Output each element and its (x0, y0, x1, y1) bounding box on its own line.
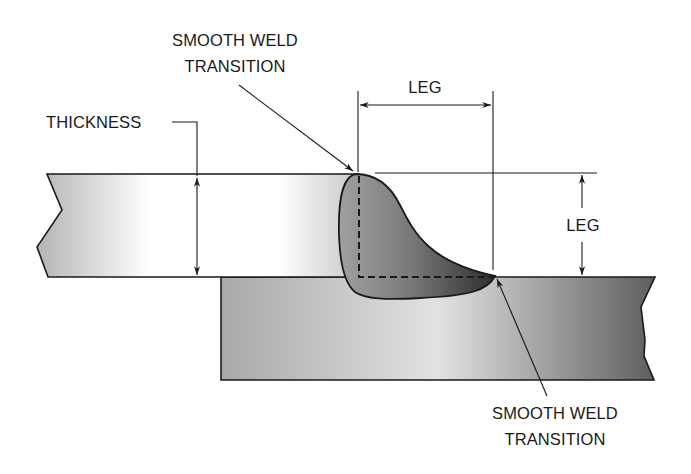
bottom-transition-label-line2: TRANSITION (470, 429, 640, 449)
top-transition-label-line2: TRANSITION (150, 56, 320, 76)
fillet-weld (339, 174, 495, 299)
top-transition-leader (239, 85, 353, 171)
leg-vertical-label: LEG (553, 215, 613, 235)
bottom-transition-label-line1: SMOOTH WELD (470, 403, 640, 423)
thickness-label: THICKNESS (46, 112, 141, 132)
thickness-leader (172, 122, 197, 176)
leg-horizontal-label: LEG (395, 77, 455, 97)
top-transition-label-line1: SMOOTH WELD (150, 30, 320, 50)
